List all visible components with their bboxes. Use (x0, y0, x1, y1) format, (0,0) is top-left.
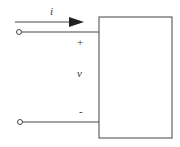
component-box (99, 17, 172, 138)
top-terminal-icon (17, 30, 22, 35)
current-arrow-head-icon (69, 17, 84, 27)
current-label: i (50, 5, 53, 17)
negative-label: - (79, 105, 83, 117)
positive-label: + (77, 36, 83, 48)
circuit-diagram: i + v - (0, 0, 180, 147)
voltage-label: v (77, 67, 82, 79)
bottom-terminal-icon (18, 120, 23, 125)
